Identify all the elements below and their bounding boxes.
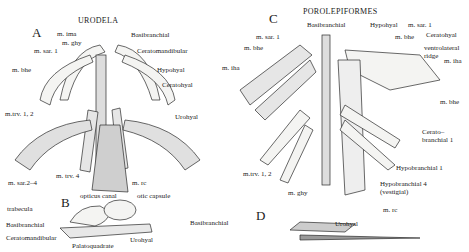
label-c-m-bhe-lower: m. bhe — [440, 98, 459, 106]
panel-a-title: URODELA — [78, 16, 118, 25]
label-d-urohyal: Urohyal — [335, 220, 358, 228]
label-a-ceratomandibular: Ceratomandibular — [137, 47, 188, 55]
label-b-trabecula: trabecula — [7, 205, 33, 213]
label-b-urohyal: Urohyal — [130, 236, 153, 244]
label-a-m-bhe: m. bhe — [12, 66, 31, 74]
label-a-basibranchial: Basibranchial — [131, 31, 170, 39]
label-c-ceratohyal: Ceratohyal — [426, 31, 457, 39]
panel-d-letter: D — [256, 208, 265, 224]
label-a-ceratohyal: Ceratohyal — [162, 81, 193, 89]
label-a-m-sar1: m. sar. 1 — [34, 47, 58, 55]
label-c-m-ghy: m. ghy — [288, 189, 307, 197]
label-a-m-ghy: m. ghy — [62, 39, 81, 47]
label-c-hypobranchial-4b: (vestigial) — [380, 188, 408, 196]
label-c-hypohyal: Hypohyal — [370, 21, 398, 29]
label-a-hypohyal: Hypohyal — [157, 66, 185, 74]
label-a-m-ima: m. ima — [57, 30, 76, 38]
label-c-hypobranchial-4a: Hypobranchial 4 — [380, 180, 427, 188]
label-c-ridge: ridge — [424, 52, 438, 60]
label-a-m-rc: m. rc — [132, 179, 146, 187]
label-c-hypobranchial-1: Hypobranchial 1 — [396, 164, 443, 172]
label-c-m-sar1-left: m. sar. 1 — [256, 33, 280, 41]
label-c-m-bhe-right: m. bhe — [395, 33, 414, 41]
label-a-m-trv12: m.trv. 1, 2 — [5, 110, 34, 118]
label-d-basibranchial: Basibranchial — [190, 219, 229, 227]
label-c-ceratobranchial-b: branchial 1 — [422, 136, 453, 144]
label-c-basibranchial: Basibranchial — [307, 21, 346, 29]
label-c-m-sar1-right: m. sar. 1 — [408, 21, 432, 29]
label-b-otic-capsule: otic capsule — [137, 192, 170, 200]
label-b-palatoquadrate: Palatoquadrate — [72, 242, 114, 250]
label-b-ceratomandibular: Ceratomandibular — [6, 234, 57, 242]
label-c-ventrolateral: ventrolateral — [424, 44, 459, 52]
label-c-m-trv12: m.trv. 1, 2 — [243, 170, 272, 178]
label-c-m-rc: m. rc — [383, 206, 397, 214]
anatomical-figure: URODELA A m. ima m. ghy m. sar. 1 m. bhe… — [0, 0, 469, 252]
label-a-m-sar24: m. sar.2–4 — [8, 179, 37, 187]
label-c-m-bhe-left: m. bhe — [244, 44, 263, 52]
label-a-m-trv4: m. trv. 4 — [56, 172, 79, 180]
label-c-m-iha-left: m. iha — [222, 64, 240, 72]
label-b-basibranchial: Basibranchial — [6, 221, 45, 229]
panel-c-title: POROLEPIFORMES — [303, 7, 377, 16]
label-b-opticus-canal: opticus canal — [80, 192, 117, 200]
label-c-m-iha-right: m. iha — [444, 57, 462, 65]
label-a-urohyal: Urohyal — [175, 113, 198, 121]
label-c-ceratobranchial-a: Cerato– — [422, 128, 444, 136]
panel-b-letter: B — [61, 195, 70, 211]
panel-a-letter: A — [32, 25, 41, 41]
panel-c-letter: C — [269, 11, 278, 27]
